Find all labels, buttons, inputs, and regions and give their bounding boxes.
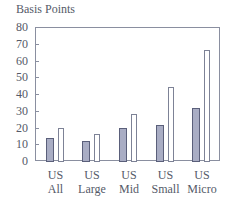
y-tick-label: 0 (4, 155, 28, 167)
y-tick-label: 50 (4, 71, 28, 83)
bar-open-us-all (58, 128, 64, 162)
y-tick-label: 60 (4, 55, 28, 67)
bar-filled-us-small (156, 125, 164, 162)
x-tick-label-line: US (180, 168, 224, 182)
y-tick-label: 70 (4, 38, 28, 50)
y-tick-label: 80 (4, 21, 28, 33)
bar-filled-us-mid (119, 128, 127, 163)
x-tick-label-line: Micro (180, 182, 224, 196)
bar-open-us-micro (204, 50, 210, 162)
bar-filled-us-micro (192, 108, 200, 162)
bar-filled-us-all (46, 138, 54, 162)
y-tick-label: 40 (4, 88, 28, 100)
bar-open-us-small (168, 87, 174, 162)
y-tick-label: 20 (4, 122, 28, 134)
x-tick-label: USMicro (180, 168, 224, 196)
bar-filled-us-large (82, 141, 90, 162)
y-tick-label: 30 (4, 105, 28, 117)
bar-open-us-mid (131, 114, 137, 162)
bar-open-us-large (94, 134, 100, 162)
y-tick-label: 10 (4, 138, 28, 150)
y-axis-title: Basis Points (16, 2, 75, 17)
